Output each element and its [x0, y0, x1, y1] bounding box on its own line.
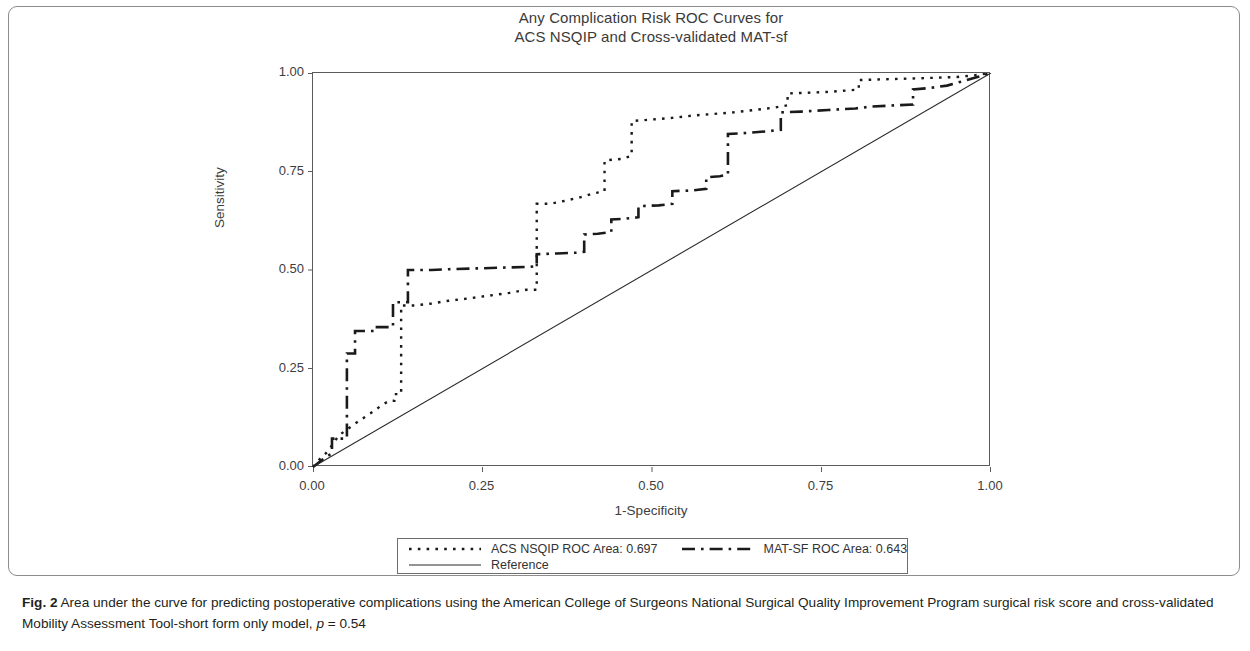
figure-caption-text: Area under the curve for predicting post…: [22, 595, 1214, 631]
y-axis-title: Sensitivity: [212, 167, 227, 228]
plot-area: [312, 72, 990, 466]
legend-swatch-dotted-icon: [407, 543, 483, 555]
legend-row-top: ACS NSQIP ROC Area: 0.697 MAT-SF ROC Are…: [398, 541, 907, 557]
x-tick-label: 0.25: [452, 478, 512, 493]
figure-caption-p-value: = 0.54: [324, 616, 366, 631]
figure-caption: Fig. 2 Area under the curve for predicti…: [22, 592, 1228, 634]
chart-title-line1: Any Complication Risk ROC Curves for: [312, 8, 990, 27]
y-axis-ticks: 0.000.250.500.751.00: [258, 72, 304, 466]
x-tick-label: 0.50: [621, 478, 681, 493]
figure-caption-p-symbol: p: [316, 616, 324, 631]
x-tick-label: 0.00: [282, 478, 342, 493]
y-tick-label: 0.25: [262, 360, 304, 375]
roc-curves-svg: [307, 73, 997, 473]
legend-entry-reference: Reference: [407, 558, 549, 572]
x-tick-label: 0.75: [791, 478, 851, 493]
y-tick-label: 0.00: [262, 458, 304, 473]
legend-label-reference: Reference: [491, 558, 549, 572]
y-tick-label: 0.75: [262, 163, 304, 178]
x-axis-title: 1-Specificity: [312, 503, 990, 518]
legend-entry-acs-nsqip: ACS NSQIP ROC Area: 0.697: [407, 542, 658, 556]
y-tick-label: 0.50: [262, 261, 304, 276]
legend-label-acs-nsqip: ACS NSQIP ROC Area: 0.697: [491, 542, 658, 556]
legend-row-bottom: Reference: [398, 557, 907, 573]
legend-swatch-solid-icon: [407, 559, 483, 571]
chart-title-line2: ACS NSQIP and Cross-validated MAT-sf: [312, 27, 990, 46]
roc-curve-series-2: [313, 73, 991, 467]
chart-legend: ACS NSQIP ROC Area: 0.697 MAT-SF ROC Are…: [397, 538, 908, 574]
figure-page: Any Complication Risk ROC Curves for ACS…: [0, 0, 1250, 651]
chart-title: Any Complication Risk ROC Curves for ACS…: [312, 8, 990, 46]
x-tick-label: 1.00: [960, 478, 1020, 493]
legend-entry-mat-sf: MAT-SF ROC Area: 0.643: [680, 542, 908, 556]
legend-swatch-dashed-icon: [680, 543, 756, 555]
x-axis-ticks: 0.000.250.500.751.00: [312, 478, 990, 498]
figure-label: Fig. 2: [22, 595, 58, 610]
legend-label-mat-sf: MAT-SF ROC Area: 0.643: [764, 542, 908, 556]
y-tick-label: 1.00: [262, 64, 304, 79]
